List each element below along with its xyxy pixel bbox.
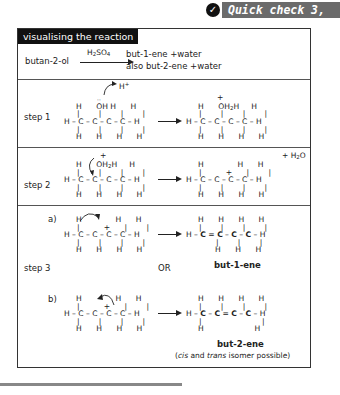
or-label: OR xyxy=(158,263,171,273)
arrow-head-icon xyxy=(176,176,182,182)
molecule-step3b-right-bottom: H H xyxy=(198,324,260,333)
step3b-label: b) xyxy=(48,294,57,304)
proton: H+ xyxy=(119,80,129,91)
reaction-arrow xyxy=(80,62,130,63)
step1-label: step 1 xyxy=(24,112,51,122)
page-rule xyxy=(0,383,182,386)
reaction-panel: visualising the reaction butan-2-ol H2SO… xyxy=(17,28,311,368)
molecule-step1-right-bottom: H H H H xyxy=(198,132,264,141)
product-line-2: also but-2-ene +water xyxy=(126,61,221,71)
water-byproduct: + H2O xyxy=(282,151,306,162)
isomer-note: (cis and trans isomer possible) xyxy=(175,351,290,361)
arrow-head-icon xyxy=(176,310,182,316)
reaction-arrow xyxy=(158,121,178,122)
check-icon: ✓ xyxy=(206,3,220,17)
molecule-step1-left-bottom: H H H H xyxy=(76,132,142,141)
arrow-head-icon xyxy=(176,118,182,124)
reaction-arrow xyxy=(158,179,178,180)
quick-check-badge: ✓ Quick check 3, 4 xyxy=(206,1,340,19)
divider xyxy=(18,205,310,206)
molecule-step3b-left-bottom: H H H H xyxy=(76,324,142,333)
catalyst-label: H2SO4 xyxy=(87,48,110,59)
quick-check-label: Quick check 3, 4 xyxy=(222,2,340,18)
molecule-step2-right-bottom: H H H H xyxy=(198,190,264,199)
product-line-1: but-1-ene +water xyxy=(126,49,202,59)
reaction-arrow xyxy=(158,234,178,235)
molecule-step2-left-bottom: H H H H xyxy=(76,190,142,199)
molecule-step3a-right-bottom: H H H xyxy=(215,245,261,254)
step3-label: step 3 xyxy=(24,263,51,273)
panel-title: visualising the reaction xyxy=(18,29,138,44)
charge-plus: + xyxy=(100,151,106,160)
molecule-step3a-left-bottom: H H H H xyxy=(76,245,142,254)
step3a-label: a) xyxy=(48,214,57,224)
divider xyxy=(18,79,310,80)
arrow-head-icon xyxy=(176,231,182,237)
step2-label: step 2 xyxy=(24,180,51,190)
reaction-arrow xyxy=(158,313,178,314)
reactant-name: butan-2-ol xyxy=(25,56,69,66)
charge-plus: + xyxy=(217,93,223,102)
divider xyxy=(18,147,310,148)
product-but-1-ene: but-1-ene xyxy=(214,260,261,270)
product-but-2-ene: but-2-ene xyxy=(217,339,264,349)
